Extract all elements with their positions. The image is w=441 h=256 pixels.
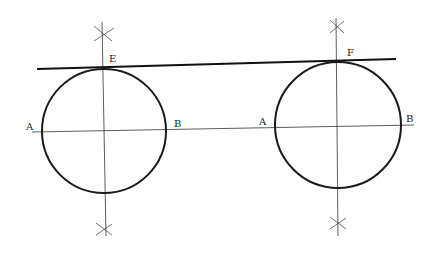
left-top-cross-mark <box>94 26 114 41</box>
label-E: E <box>109 53 116 64</box>
label-F: F <box>347 47 354 58</box>
horizontal-axis-line <box>32 125 414 132</box>
left-vertical-axis <box>102 22 106 236</box>
label-left-A: A <box>25 121 34 132</box>
label-right-A: A <box>258 116 267 127</box>
label-right-B: B <box>406 113 413 124</box>
right-vertical-axis <box>336 18 338 236</box>
label-left-B: B <box>174 118 181 129</box>
diagram-canvas: A B E A B F <box>0 0 441 256</box>
right-top-cross-mark <box>330 20 344 33</box>
left-bottom-cross-mark <box>96 223 112 235</box>
common-tangent-line <box>37 59 396 69</box>
right-circle <box>275 62 401 188</box>
